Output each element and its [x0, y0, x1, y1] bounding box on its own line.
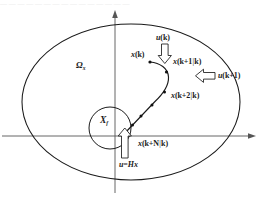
invariant-set-subscript: x	[83, 65, 86, 71]
state-pred-2-label: x(k+2|k)	[171, 92, 199, 100]
trajectory-node	[165, 70, 168, 73]
block-arrow-left-icon	[196, 69, 216, 82]
input-k1-arg: (k+1)	[222, 71, 240, 80]
invariant-set-label: Ωx	[76, 61, 85, 71]
state-current-arg: (k)	[135, 50, 144, 59]
state-pred-1-arg-b: k)	[194, 57, 201, 66]
state-current-label: x(k)	[131, 51, 144, 59]
block-arrow-down-icon	[158, 44, 171, 64]
invariant-set-ellipse	[22, 24, 240, 180]
invariant-set-symbol: Ω	[76, 60, 83, 70]
trajectory-node	[163, 91, 166, 94]
mpc-diagram-figure: — — — — — — — — — — — — — — —	[0, 0, 265, 204]
state-pred-2-arg-b: k)	[192, 91, 199, 100]
axis-arrow-up-icon	[112, 10, 118, 18]
trajectory-node	[151, 104, 154, 107]
block-arrow-up-icon	[118, 128, 131, 158]
state-pred-N-arg-b: k)	[161, 139, 168, 148]
terminal-set-subscript: f	[106, 120, 108, 126]
state-pred-N-arg-a: (k+N	[142, 139, 159, 148]
diagram-canvas	[0, 0, 265, 204]
input-k-label: u(k)	[156, 34, 170, 42]
state-pred-N-label: x(k+N|k)	[138, 140, 168, 148]
state-pred-1-label: x(k+1|k)	[173, 58, 201, 66]
trajectory-node	[148, 60, 151, 63]
axis-arrow-right-icon	[248, 133, 256, 139]
state-pred-2-arg-a: (k+2	[175, 91, 190, 100]
trajectory-node	[140, 115, 143, 118]
terminal-control-law-label: u=Hx	[119, 161, 138, 169]
terminal-law-hx: Hx	[128, 160, 138, 169]
terminal-set-label: Xf	[100, 116, 108, 126]
input-k-arg: (k)	[160, 33, 169, 42]
trajectory-node	[131, 124, 134, 127]
state-pred-1-arg-a: (k+1	[177, 57, 192, 66]
input-k1-label: u(k+1)	[218, 72, 240, 80]
predicted-state-trajectory	[125, 62, 169, 133]
trajectory-node-group	[123, 60, 168, 135]
